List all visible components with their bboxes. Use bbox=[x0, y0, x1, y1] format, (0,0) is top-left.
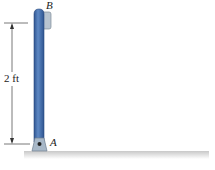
arrow-up-icon bbox=[10, 23, 14, 29]
ground-shadow bbox=[24, 151, 209, 159]
rod bbox=[34, 9, 44, 142]
label-point-b: B bbox=[46, 0, 53, 11]
arrow-down-icon bbox=[10, 138, 14, 144]
label-dimension: 2 ft bbox=[4, 72, 19, 84]
pin-icon bbox=[38, 142, 42, 146]
diagram-canvas bbox=[0, 0, 215, 170]
label-point-a: A bbox=[50, 136, 57, 148]
